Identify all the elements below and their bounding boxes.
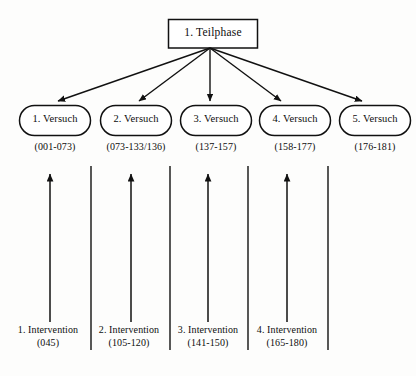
intervention-range-2: (105-120) [89,336,169,349]
trial-oval-5 [340,106,411,136]
trial-oval-1 [20,106,91,136]
intervention-range-4: (165-180) [247,336,327,349]
intervention-label-4: 4. Intervention (165-180) [247,323,327,349]
intervention-label-3: 3. Intervention (141-150) [168,323,248,349]
trial-oval-4 [260,106,331,136]
intervention-name-3: 3. Intervention [168,323,248,336]
trial-ovals [20,106,411,136]
intervention-arrows [50,174,287,322]
trial-oval-3 [181,106,252,136]
intervention-name-2: 2. Intervention [89,323,169,336]
phase-to-trial-connectors [58,48,362,101]
intervention-name-1: 1. Intervention [8,323,88,336]
intervention-range-1: (045) [8,336,88,349]
connector-trial-4 [210,48,281,101]
trial-oval-2 [101,106,172,136]
diagram-canvas: 1. Teilphase 1. Versuch 2. Versuch 3. Ve… [0,0,416,376]
connector-trial-5 [210,48,362,101]
connector-trial-1 [58,48,210,101]
intervention-label-1: 1. Intervention (045) [8,323,88,349]
intervention-range-3: (141-150) [168,336,248,349]
connector-trial-2 [139,48,210,101]
diagram-graphics [0,0,416,376]
intervention-name-4: 4. Intervention [247,323,327,336]
intervention-label-2: 2. Intervention (105-120) [89,323,169,349]
phase-box [169,20,258,49]
